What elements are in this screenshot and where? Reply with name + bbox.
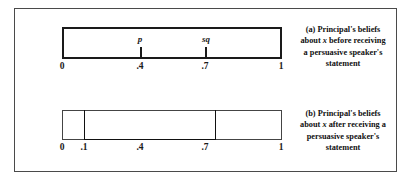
caption-a-line-3: a persuasive speaker's [304,48,383,57]
axis-label-a-2: .7 [201,62,208,72]
axis-label-b-2: .4 [136,143,143,153]
axis-label-b-4: 1 [279,143,284,153]
axis-label-b-0: 0 [60,143,65,153]
axis-label-a-3: 1 [279,62,284,72]
axis-label-b-3: .7 [201,143,208,153]
panel-b-caption: (b) Principal's beliefs about x after re… [287,108,399,153]
panel-a-caption: (a) Principal's beliefs about x before r… [287,24,399,69]
belief-interval-b [84,110,216,140]
caption-a-line-4: statement [326,59,361,68]
caption-a-line-1: (a) Principal's beliefs [306,25,381,34]
tick-mark-sq [205,47,207,59]
point-label-p: p [138,35,143,44]
caption-b-line-1: (b) Principal's beliefs [305,109,380,118]
variable-x: x [322,120,326,129]
caption-b-line-2: about x after receiving a [300,120,386,129]
point-label-sq: sq [202,35,210,44]
caption-a-line-2: about x before receiving [300,36,385,45]
variable-x: x [323,36,327,45]
axis-label-a-0: 0 [60,62,65,72]
axis-label-b-1: .1 [80,143,87,153]
belief-bar-a [62,27,282,59]
tick-mark-p [140,47,142,59]
caption-b-line-4: statement [326,143,361,152]
axis-label-a-1: .4 [136,62,143,72]
caption-b-line-3: persuasive speaker's [307,132,380,141]
figure-container: p sq 0 .4 .7 1 (a) Principal's beliefs a… [0,0,409,183]
